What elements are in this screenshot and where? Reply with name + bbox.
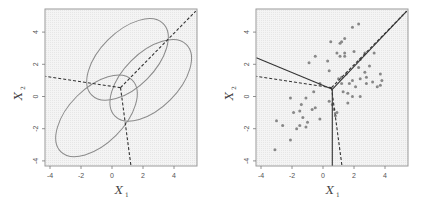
data-point: [289, 97, 292, 100]
right-panel: -4-2024-4-2024X1X2: [211, 0, 422, 212]
data-point: [328, 100, 331, 103]
data-point: [314, 106, 317, 109]
data-point: [348, 82, 351, 85]
x-axis-title-subscript: 1: [125, 191, 129, 198]
data-point: [376, 85, 379, 88]
data-point: [308, 61, 311, 64]
data-point: [353, 50, 356, 53]
x-tick-label: 4: [172, 172, 176, 179]
data-point: [335, 111, 338, 114]
data-point: [314, 55, 317, 58]
x-tick-label: -4: [47, 172, 53, 179]
x-tick-label: -2: [78, 172, 84, 179]
y-tick-label: 4: [32, 30, 39, 34]
data-point: [289, 138, 292, 141]
data-point: [363, 71, 366, 74]
data-point: [365, 76, 368, 79]
data-point: [343, 52, 346, 55]
x-axis-title: X: [114, 184, 124, 197]
data-point: [342, 90, 345, 93]
data-point: [311, 108, 314, 111]
data-point: [304, 126, 307, 129]
data-point: [340, 82, 343, 85]
data-point: [365, 82, 368, 85]
data-point: [295, 127, 298, 130]
data-point: [312, 90, 315, 93]
x-tick-label: 0: [321, 172, 325, 179]
data-point: [351, 95, 354, 98]
x-tick-label: 2: [352, 172, 356, 179]
y-tick-label: -2: [243, 125, 250, 131]
y-tick-label: 2: [32, 62, 39, 66]
x-tick-label: 0: [110, 172, 114, 179]
data-point: [318, 118, 321, 121]
y-tick-label: 4: [243, 30, 250, 34]
x-tick-label: 2: [141, 172, 145, 179]
x-tick-label: -2: [289, 172, 295, 179]
data-point: [281, 124, 284, 127]
y-axis-title-subscript: 2: [230, 86, 237, 90]
data-point: [373, 52, 376, 55]
data-point: [357, 23, 360, 26]
left-panel: -4-2024-4-2024X1X2: [0, 0, 211, 212]
data-point: [368, 64, 371, 67]
x-axis-title: X: [325, 184, 335, 197]
data-point: [346, 92, 349, 95]
data-point: [340, 40, 343, 43]
data-point: [343, 55, 346, 58]
data-point: [357, 66, 360, 69]
y-tick-label: 0: [243, 94, 250, 98]
data-point: [379, 72, 382, 75]
right-chart-scatter: -4-2024-4-2024X1X2: [211, 0, 422, 212]
data-point: [335, 52, 338, 55]
data-point: [371, 81, 374, 84]
data-point: [343, 37, 346, 40]
x-tick-label: -4: [258, 172, 264, 179]
y-tick-label: -2: [32, 125, 39, 131]
data-point: [298, 124, 301, 127]
y-axis-title: X: [12, 91, 25, 101]
y-tick-label: -4: [32, 158, 39, 164]
data-point: [339, 55, 342, 58]
y-tick-label: 0: [32, 94, 39, 98]
data-point: [359, 77, 362, 80]
data-point: [351, 26, 354, 29]
data-point: [292, 111, 295, 114]
data-point: [275, 119, 278, 122]
data-point: [359, 95, 362, 98]
x-tick-label: 4: [383, 172, 387, 179]
data-point: [273, 148, 276, 151]
data-point: [328, 69, 331, 72]
data-point: [346, 101, 349, 104]
data-point: [329, 40, 332, 43]
data-point: [380, 79, 383, 82]
y-axis-title-subscript: 2: [19, 86, 26, 90]
data-point: [300, 103, 303, 106]
y-tick-label: 2: [243, 62, 250, 66]
y-tick-label: -4: [243, 158, 250, 164]
x-axis-title-subscript: 1: [336, 191, 340, 198]
data-point: [301, 116, 304, 119]
data-point: [326, 60, 329, 63]
data-point: [351, 79, 354, 82]
left-chart-ellipses: -4-2024-4-2024X1X2: [0, 0, 211, 212]
data-point: [379, 84, 382, 87]
data-point: [304, 97, 307, 100]
y-axis-title: X: [223, 91, 236, 101]
data-point: [298, 109, 301, 112]
data-point: [306, 121, 309, 124]
data-point: [354, 85, 357, 88]
